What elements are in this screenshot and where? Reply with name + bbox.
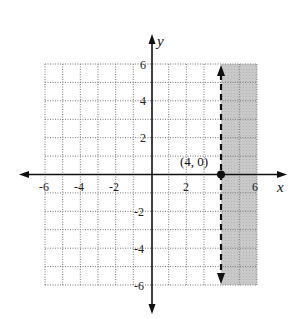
- x-tick-label: -4: [74, 180, 84, 194]
- y-axis-label: y: [155, 33, 164, 49]
- x-tick-label: -2: [109, 180, 119, 194]
- y-axis-up-arrow-icon: [149, 34, 156, 44]
- graph: y x (4, 0) -6 -4 -2 2 6 6 4 2 -2 -4 -6: [0, 0, 304, 319]
- x-tick-label: 2: [183, 180, 189, 194]
- y-tick-label: 6: [140, 58, 146, 72]
- y-tick-label: -6: [134, 279, 144, 293]
- y-axis-down-arrow-icon: [149, 304, 156, 314]
- y-tick-label: -2: [134, 205, 144, 219]
- y-tick-label: -4: [134, 242, 144, 256]
- x-axis-right-arrow-icon: [277, 171, 287, 178]
- point-label: (4, 0): [180, 154, 208, 169]
- x-axis-left-arrow-icon: [19, 171, 29, 178]
- x-axis-label: x: [276, 179, 284, 195]
- y-tick-label: 2: [140, 131, 146, 145]
- point-4-0: [217, 171, 225, 179]
- x-tick-label: 6: [252, 180, 258, 194]
- y-tick-label: 4: [140, 94, 146, 108]
- x-tick-label: -6: [39, 180, 49, 194]
